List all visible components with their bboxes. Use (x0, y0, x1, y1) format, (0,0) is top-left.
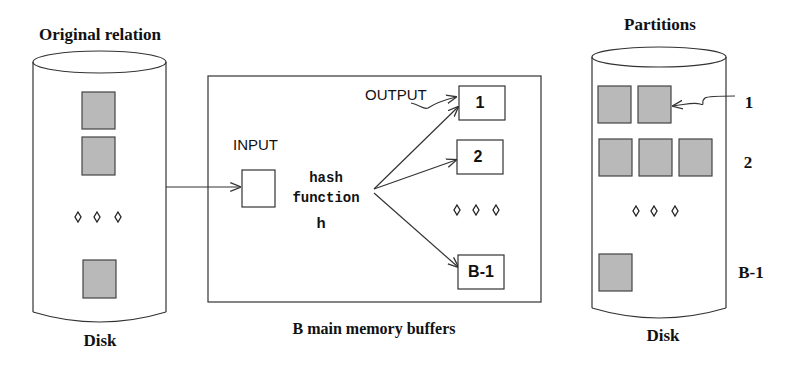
partitions-title: Partitions (624, 15, 696, 34)
output-buffer-b-1-label: B-1 (468, 263, 494, 280)
partitions-disk: Partitions 1 2 B-1 Disk (592, 15, 764, 345)
disk-page (82, 92, 115, 129)
disk-bottom (592, 308, 726, 318)
ellipsis-icon (75, 212, 121, 222)
main-memory-buffers: INPUT hash function h OUTPUT 1 2 B-1 B m… (208, 76, 541, 338)
disk-top (33, 51, 166, 73)
partition-2-page (679, 139, 712, 176)
partition-label-2: 2 (744, 153, 753, 172)
partition-label-1: 1 (745, 93, 754, 112)
memory-caption: B main memory buffers (292, 320, 455, 338)
ellipsis-icon (633, 206, 678, 216)
disk-page (83, 260, 116, 298)
hash-arrow-1 (374, 107, 458, 189)
partition-1-page (598, 86, 631, 123)
disk-top (592, 47, 726, 67)
hash-arrow-b-1 (374, 193, 458, 267)
left-disk-caption: Disk (83, 331, 117, 350)
hash-arrow-2 (374, 160, 456, 189)
output-label: OUTPUT (365, 86, 427, 103)
partition-2-page (599, 139, 632, 176)
hash-function-label-line1: hash (309, 170, 343, 186)
output-buffer-2-label: 2 (474, 148, 483, 165)
hash-partitioning-diagram: Original relation Disk INPUT hash functi… (0, 0, 791, 365)
output-buffer-1-label: 1 (476, 94, 485, 111)
original-relation-title: Original relation (39, 25, 162, 44)
input-label: INPUT (233, 136, 278, 153)
hash-function-label-line2: function (292, 190, 359, 206)
disk-page (82, 137, 115, 175)
disk-bottom (33, 312, 166, 322)
original-relation-disk: Original relation Disk (33, 25, 166, 350)
right-disk-caption: Disk (646, 326, 680, 345)
partition-label-b-1: B-1 (738, 263, 764, 282)
hash-function-label-line3: h (316, 214, 325, 231)
partition-b-1-page (599, 254, 632, 291)
ellipsis-icon (454, 205, 499, 215)
partition-1-page (638, 86, 671, 123)
partition-2-page (639, 139, 672, 176)
input-buffer (242, 170, 275, 207)
